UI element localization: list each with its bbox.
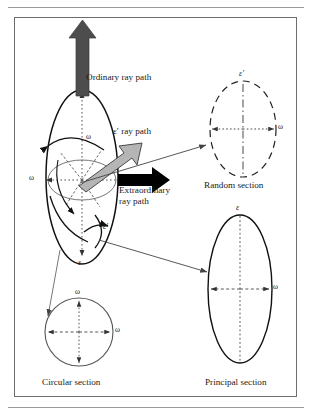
principal-section-caption: Principal section (205, 377, 267, 387)
random-section-figure (210, 81, 276, 177)
indicatrix-omega-equator-label: ω (29, 174, 34, 183)
extraordinary-ray-path-label-line1: Extraordinary (119, 185, 170, 195)
indicatrix-epsilon-prime-label: ε′ (103, 222, 108, 231)
connector-to-principal-section (99, 240, 207, 272)
principal-section-omega-label: ω (273, 283, 278, 292)
connector-to-circular-section (48, 250, 60, 316)
indicatrix-epsilon-label: ε (78, 258, 81, 267)
circular-section-omega-vertical-label: ω (75, 288, 80, 297)
random-section-omega-label: ω (278, 123, 283, 132)
diagram-canvas (0, 0, 312, 413)
indicatrix-omega-interior-label: ω (86, 133, 91, 142)
circular-section-caption: Circular section (42, 377, 100, 387)
random-section-caption: Random section (204, 180, 263, 190)
circular-section-omega-horizontal-label: ω (115, 326, 120, 335)
ordinary-ray-arrow (69, 20, 96, 96)
extraordinary-ray-path-label-line2: ray path (119, 196, 149, 206)
circular-section-figure (45, 298, 113, 366)
principal-section-epsilon-label: ε (236, 203, 239, 212)
epsilon-prime-ray-path-label: ε′ ray path (113, 126, 151, 136)
principal-section-figure (208, 215, 272, 363)
ordinary-ray-path-label: Ordinary ray path (86, 72, 151, 82)
indicatrix-ellipsoid (46, 90, 118, 264)
random-section-epsilon-prime-label: ε′ (239, 69, 244, 78)
